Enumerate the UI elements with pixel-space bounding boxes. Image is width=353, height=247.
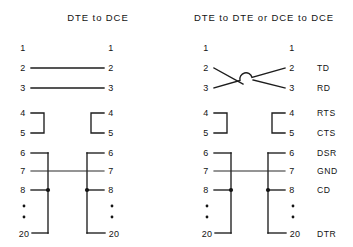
bracket-right-near-rts-cts <box>214 113 227 133</box>
ellipsis-dot-right-far <box>292 216 295 219</box>
pin-label-left-2: 2 <box>20 63 25 73</box>
pin-label-right-far-3: 3 <box>289 83 294 93</box>
pin-label-left-20: 20 <box>19 229 30 239</box>
bracket-left-near-rts-cts <box>31 113 44 133</box>
ellipsis-dot-right-near <box>206 205 209 208</box>
pin-label-left-6: 6 <box>20 148 25 158</box>
pin-label-right-6: 6 <box>203 148 208 158</box>
pin-label-right-3: 3 <box>203 83 208 93</box>
signal-label-rts: RTS <box>317 108 336 118</box>
pin-label-left-3: 3 <box>20 83 25 93</box>
wire-right-cross-td-b <box>253 80 285 88</box>
ellipsis-dot-left-near <box>23 205 26 208</box>
panel-dte-to-dce: 1 2 3 4 5 6 7 8 20 1 2 3 4 5 6 7 8 20 <box>19 43 120 239</box>
pin-label-right-7: 7 <box>203 166 208 176</box>
bracket-right-far-rts-cts <box>272 113 285 133</box>
pin-label-left-far-3: 3 <box>108 83 113 93</box>
panel-title-left: DTE to DCE <box>67 12 128 23</box>
pin-label-left-far-6: 6 <box>108 148 113 158</box>
panel-dte-to-dte-or-dce-to-dce: 1 2 3 4 5 6 7 8 20 1 2 3 4 5 6 7 8 20 <box>202 43 301 239</box>
pin-label-right-far-20: 20 <box>290 229 301 239</box>
pin-label-right-5: 5 <box>203 128 208 138</box>
signal-label-rd: RD <box>317 83 331 93</box>
pin-label-left-1: 1 <box>20 43 25 53</box>
pin-label-left-far-5: 5 <box>108 128 113 138</box>
ellipsis-dot-left-far <box>111 216 114 219</box>
signal-label-column: TD RD RTS CTS DSR GND CD DTR <box>317 63 338 239</box>
junction-dot-right-near <box>229 188 233 192</box>
pin-label-left-far-8: 8 <box>108 185 113 195</box>
ellipsis-dot-left-far <box>111 205 114 208</box>
pin-label-left-far-20: 20 <box>109 229 120 239</box>
signal-label-td: TD <box>317 63 330 73</box>
pin-label-right-far-4: 4 <box>289 108 294 118</box>
pin-label-right-4: 4 <box>203 108 208 118</box>
pin-label-left-far-7: 7 <box>108 166 113 176</box>
pin-label-right-20: 20 <box>202 229 213 239</box>
pin-label-right-far-5: 5 <box>289 128 294 138</box>
ellipsis-dot-left-near <box>23 216 26 219</box>
signal-label-cd: CD <box>317 185 331 195</box>
signal-label-dtr: DTR <box>317 229 336 239</box>
wire-right-cross-td-a <box>214 68 243 84</box>
junction-dot-right-far <box>266 188 270 192</box>
signal-label-cts: CTS <box>317 128 336 138</box>
pin-label-right-far-2: 2 <box>289 63 294 73</box>
pin-label-left-far-1: 1 <box>108 43 113 53</box>
ellipsis-dot-right-near <box>206 216 209 219</box>
pin-label-left-5: 5 <box>20 128 25 138</box>
pin-label-right-far-6: 6 <box>289 148 294 158</box>
pin-label-left-7: 7 <box>20 166 25 176</box>
pin-label-left-far-2: 2 <box>108 63 113 73</box>
signal-label-dsr: DSR <box>317 148 337 158</box>
junction-dot-left-near <box>46 188 50 192</box>
pin-label-right-2: 2 <box>203 63 208 73</box>
pin-label-right-far-8: 8 <box>289 185 294 195</box>
ellipsis-dot-right-far <box>292 205 295 208</box>
panel-title-right: DTE to DTE or DCE to DCE <box>194 12 334 23</box>
pin-label-right-far-7: 7 <box>289 166 294 176</box>
signal-label-gnd: GND <box>317 166 338 176</box>
pin-label-right-1: 1 <box>203 43 208 53</box>
wiring-diagram: DTE to DCE DTE to DTE or DCE to DCE 1 2 … <box>0 0 353 247</box>
junction-dot-left-far <box>85 188 89 192</box>
pin-label-left-far-4: 4 <box>108 108 113 118</box>
pin-label-right-far-1: 1 <box>289 43 294 53</box>
pin-label-left-4: 4 <box>20 108 25 118</box>
pin-label-left-8: 8 <box>20 185 25 195</box>
pin-label-right-8: 8 <box>203 185 208 195</box>
bracket-left-far-rts-cts <box>91 113 104 133</box>
